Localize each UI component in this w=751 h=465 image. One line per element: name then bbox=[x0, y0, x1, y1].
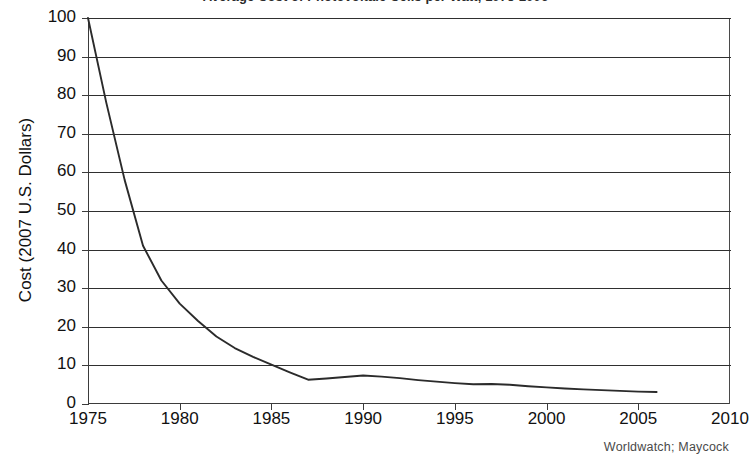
x-tick-mark-1985 bbox=[271, 404, 272, 410]
y-tick-label-20: 20 bbox=[30, 316, 76, 336]
gridline-80 bbox=[89, 95, 731, 96]
gridline-100 bbox=[89, 18, 731, 19]
gridline-50 bbox=[89, 211, 731, 212]
y-tick-label-40: 40 bbox=[30, 239, 76, 259]
x-tick-label-2005: 2005 bbox=[603, 409, 673, 429]
x-tick-mark-1995 bbox=[455, 404, 456, 410]
x-tick-mark-1990 bbox=[363, 404, 364, 410]
y-tick-label-10: 10 bbox=[30, 354, 76, 374]
y-tick-label-80: 80 bbox=[30, 84, 76, 104]
gridline-90 bbox=[89, 57, 731, 58]
y-tick-label-100: 100 bbox=[30, 7, 76, 27]
y-tick-label-30: 30 bbox=[30, 277, 76, 297]
y-tick-label-60: 60 bbox=[30, 161, 76, 181]
x-tick-label-2000: 2000 bbox=[512, 409, 582, 429]
x-tick-label-2010: 2010 bbox=[695, 409, 751, 429]
gridline-70 bbox=[89, 134, 731, 135]
x-tick-label-1995: 1995 bbox=[420, 409, 490, 429]
gridline-30 bbox=[89, 288, 731, 289]
x-tick-label-1980: 1980 bbox=[145, 409, 215, 429]
gridline-10 bbox=[89, 365, 731, 366]
gridline-60 bbox=[89, 172, 731, 173]
y-tick-label-70: 70 bbox=[30, 123, 76, 143]
y-tick-label-50: 50 bbox=[30, 200, 76, 220]
y-tick-label-90: 90 bbox=[30, 46, 76, 66]
plot-area bbox=[88, 18, 730, 404]
x-tick-mark-1980 bbox=[180, 404, 181, 410]
source-note: Worldwatch; Maycock bbox=[604, 440, 729, 454]
x-tick-label-1985: 1985 bbox=[236, 409, 306, 429]
x-tick-label-1990: 1990 bbox=[328, 409, 398, 429]
gridline-40 bbox=[89, 250, 731, 251]
x-tick-label-1975: 1975 bbox=[53, 409, 123, 429]
photovoltaic-cost-chart: Average Cost of Photovoltaic Cells per W… bbox=[0, 0, 751, 465]
x-tick-mark-2000 bbox=[547, 404, 548, 410]
gridline-20 bbox=[89, 327, 731, 328]
x-tick-mark-2005 bbox=[638, 404, 639, 410]
y-tick-mark-0 bbox=[82, 404, 89, 405]
